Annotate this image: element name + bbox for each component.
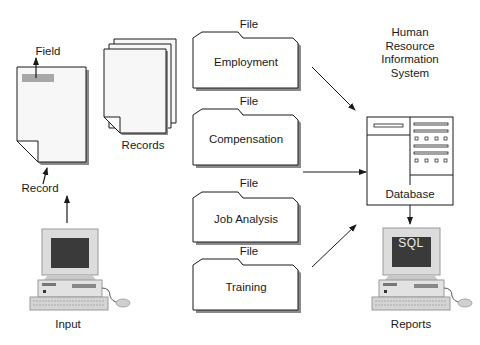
input-computer-icon <box>30 229 130 310</box>
file-name-job-analysis: Job Analysis <box>214 213 278 225</box>
hris-title: Human Resource Information System <box>381 26 439 80</box>
hris-title-line: System <box>381 67 439 81</box>
database-label: Database <box>385 188 434 200</box>
field-label: Field <box>36 45 61 58</box>
input-label: Input <box>55 318 81 331</box>
file-caption-employment: File <box>240 18 259 31</box>
file-name-employment: Employment <box>214 56 278 68</box>
reports-label: Reports <box>391 318 431 331</box>
employment-to-database-arrow <box>312 67 355 110</box>
file-name-training: Training <box>225 281 266 293</box>
file-caption-training: File <box>240 245 259 258</box>
file-caption-compensation: File <box>240 95 259 108</box>
records-stack-icon <box>104 39 176 135</box>
job-analysis-to-database-arrow <box>312 225 356 267</box>
record-label: Record <box>21 182 58 195</box>
hris-title-line: Human <box>381 26 439 40</box>
records-label: Records <box>122 139 165 152</box>
record-document-icon <box>17 58 89 184</box>
file-caption-job-analysis: File <box>240 177 259 190</box>
hris-title-line: Resource <box>381 40 439 54</box>
hris-title-line: Information <box>381 53 439 67</box>
field-highlight <box>22 74 54 82</box>
sql-screen-text: SQL <box>398 236 424 250</box>
file-name-compensation: Compensation <box>209 133 283 145</box>
